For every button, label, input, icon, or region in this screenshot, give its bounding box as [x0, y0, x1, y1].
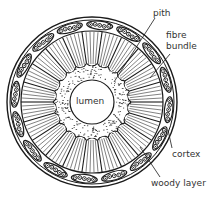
pith-speckle [57, 101, 58, 102]
pith-speckle [69, 83, 70, 84]
pith-speckle [78, 81, 79, 82]
pith-speckle [77, 71, 79, 72]
pith-speckle [60, 93, 61, 94]
pith-speckle [67, 88, 69, 89]
pith-speckle [114, 83, 115, 84]
pith-speckle [65, 113, 66, 114]
pith-speckle [63, 122, 64, 123]
stem-cross-section-diagram: lumen pith fibre bundle cortex woody lay… [0, 0, 215, 202]
pith-speckle [76, 76, 77, 77]
pith-speckle [61, 96, 63, 97]
pith-speckle [62, 108, 63, 109]
pith-speckle [94, 73, 95, 74]
pith-speckle [103, 130, 104, 131]
pith-speckle [62, 110, 64, 111]
pith-speckle [103, 124, 104, 125]
pith-speckle [92, 67, 93, 68]
pith-speckle [67, 90, 68, 91]
pith-speckle [91, 135, 92, 136]
pith-speckle [114, 92, 116, 93]
pith-speckle [105, 79, 106, 80]
pith-speckle [106, 129, 107, 130]
pith-speckle [94, 70, 96, 71]
pith-speckle [64, 104, 65, 105]
pith-speckle [93, 128, 94, 129]
pith-speckle [121, 124, 122, 125]
pith-speckle [62, 100, 64, 101]
pith-speckle [92, 65, 94, 66]
pith-speckle [115, 82, 116, 83]
pith-speckle [119, 106, 120, 107]
pith-speckle [118, 84, 119, 85]
pith-speckle [104, 123, 106, 124]
pith-speckle [119, 84, 120, 85]
pith-speckle [116, 117, 117, 118]
pith-speckle [123, 100, 125, 101]
pith-speckle [57, 111, 58, 112]
pith-speckle [116, 128, 118, 129]
pith-speckle [97, 134, 98, 135]
pith-speckle [83, 135, 84, 136]
pith-speckle [95, 67, 97, 68]
pith-speckle [112, 123, 113, 124]
pith-speckle [106, 126, 107, 127]
pith-speckle [61, 89, 63, 90]
pith-speckle [76, 124, 77, 125]
pith-speckle [90, 74, 92, 75]
pith-speckle [95, 129, 96, 130]
pith-speckle [72, 119, 73, 120]
pith-speckle [61, 108, 63, 109]
pith-speckle [123, 92, 124, 93]
pith-speckle [96, 136, 97, 137]
pith-speckle [55, 99, 57, 100]
pith-speckle [93, 77, 94, 78]
pith-speckle [65, 118, 67, 119]
pith-speckle [90, 72, 91, 73]
pith-speckle [93, 127, 94, 128]
pith-speckle [116, 121, 117, 122]
pith-speckle [66, 91, 68, 92]
pith-speckle [88, 74, 89, 75]
pith-speckle [110, 124, 111, 125]
pith-speckle [120, 111, 121, 112]
pith-speckle [115, 78, 116, 79]
pith-speckle [127, 104, 128, 105]
pith-speckle [100, 69, 102, 70]
pith-speckle [124, 94, 125, 95]
pith-speckle [116, 127, 118, 128]
pith-speckle [67, 117, 69, 118]
label-pith: pith [153, 8, 170, 18]
pith-speckle [128, 95, 129, 96]
label-fibre-bundle-line2: bundle [166, 41, 197, 51]
pith-speckle [80, 123, 81, 124]
pith-speckle [55, 109, 57, 110]
pith-speckle [109, 71, 110, 72]
label-fibre-bundle-line1: fibre [166, 30, 186, 40]
pith-speckle [61, 91, 62, 92]
pith-speckle [65, 94, 66, 95]
pith-speckle [115, 116, 116, 117]
pith-speckle [118, 105, 119, 106]
pith-speckle [72, 128, 73, 129]
pith-speckle [114, 114, 115, 115]
pith-speckle [83, 72, 85, 73]
pith-speckle [120, 78, 121, 79]
pith-speckle [72, 83, 73, 84]
pith-speckle [80, 78, 81, 79]
pith-speckle [112, 121, 113, 122]
pith-speckle [67, 105, 68, 106]
pith-speckle [74, 125, 75, 126]
pith-speckle [95, 71, 96, 72]
pith-speckle [87, 125, 88, 126]
pith-speckle [92, 66, 94, 67]
pith-speckle [85, 70, 86, 71]
pith-speckle [81, 80, 83, 81]
pith-speckle [83, 68, 85, 69]
pith-speckle [64, 97, 65, 98]
pith-speckle [109, 133, 110, 134]
pith-speckle [118, 98, 119, 99]
pith-speckle [76, 121, 78, 122]
pith-speckle [60, 120, 61, 121]
pith-speckle [63, 91, 64, 92]
pith-speckle [96, 73, 97, 74]
